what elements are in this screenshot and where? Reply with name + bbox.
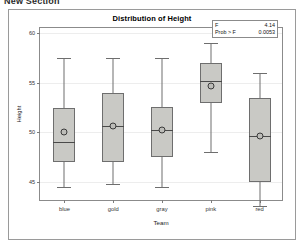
prob-label: Prob > F	[215, 29, 236, 36]
box-plot	[235, 28, 284, 200]
mean-marker	[207, 82, 214, 89]
y-tick-label: 60	[29, 30, 35, 36]
x-axis-label: Team	[39, 219, 283, 226]
f-label: F	[215, 22, 218, 29]
y-axis-label: Height	[16, 106, 22, 123]
y-tick-label: 50	[29, 129, 35, 135]
whisker-cap	[106, 58, 120, 59]
y-tick-label: 45	[29, 179, 35, 185]
chart-panel: Distribution of Height Height 45505560 b…	[8, 9, 296, 240]
x-tick-label: gray	[156, 206, 167, 212]
box-plot	[138, 28, 187, 200]
stats-row-f: F 4.14	[215, 22, 275, 29]
box-plot	[186, 28, 235, 200]
x-tick-mark	[162, 200, 163, 203]
plot-area: 45505560 bluegoldgraypinkred	[39, 27, 283, 201]
y-tick-label: 55	[29, 80, 35, 86]
whisker-cap	[204, 43, 218, 44]
whisker-cap	[57, 58, 71, 59]
whisker-cap	[253, 206, 267, 207]
x-tick-label: pink	[205, 206, 216, 212]
whisker-cap	[155, 187, 169, 188]
box-plot	[89, 28, 138, 200]
x-tick-label: blue	[59, 206, 70, 212]
mean-marker	[256, 133, 263, 140]
x-tick-mark	[64, 200, 65, 203]
x-tick-mark	[113, 200, 114, 203]
mean-marker	[61, 129, 68, 136]
whisker-cap	[57, 187, 71, 188]
median-line	[53, 142, 75, 143]
box-plot	[40, 28, 89, 200]
whisker-cap	[253, 73, 267, 74]
whisker-cap	[204, 152, 218, 153]
section-header: New Section	[4, 0, 60, 6]
mean-marker	[110, 123, 117, 130]
whisker-cap	[106, 184, 120, 185]
prob-value: 0.0053	[259, 29, 276, 36]
x-tick-label: gold	[108, 206, 119, 212]
whisker-cap	[155, 58, 169, 59]
mean-marker	[158, 127, 165, 134]
stats-row-prob: Prob > F 0.0053	[215, 29, 275, 36]
f-value: 4.14	[265, 22, 276, 29]
anova-stats-box: F 4.14 Prob > F 0.0053	[212, 20, 278, 38]
x-tick-mark	[211, 200, 212, 203]
